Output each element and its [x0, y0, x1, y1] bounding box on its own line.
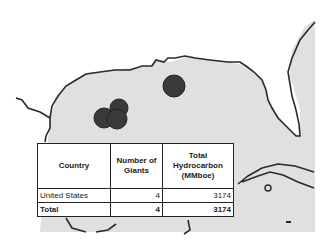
table-header-row: Country Number of Giants Total Hydrocarb…	[38, 144, 234, 189]
giant-field-marker	[107, 109, 127, 129]
cell-country: United States	[38, 189, 111, 203]
small-island-icon	[286, 221, 291, 223]
total-giants: 4	[111, 203, 163, 217]
header-country: Country	[38, 144, 111, 189]
total-label: Total	[38, 203, 111, 217]
total-hydrocarbon: 3174	[163, 203, 234, 217]
giant-field-marker	[163, 75, 185, 97]
giants-summary-table: Country Number of Giants Total Hydrocarb…	[37, 143, 234, 217]
cell-hydrocarbon: 3174	[163, 189, 234, 203]
header-total-hydrocarbon: Total Hydrocarbon (MMboe)	[163, 144, 234, 189]
table-total-row: Total 4 3174	[38, 203, 234, 217]
cell-giants: 4	[111, 189, 163, 203]
header-number-of-giants: Number of Giants	[111, 144, 163, 189]
table-row: United States 4 3174	[38, 189, 234, 203]
